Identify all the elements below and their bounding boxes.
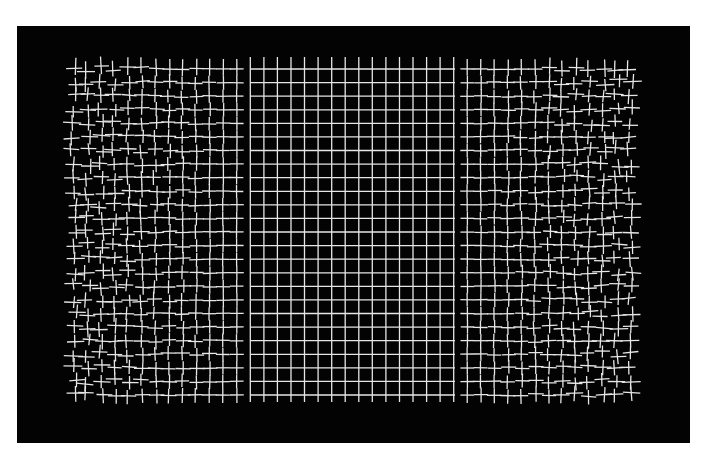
distorted-grid	[0, 0, 708, 466]
